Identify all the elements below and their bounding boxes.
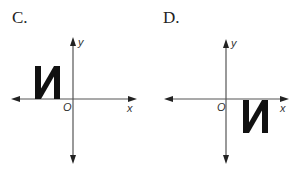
origin-label: O (217, 101, 226, 113)
x-axis-left-arrow-icon (11, 96, 20, 102)
x-axis-left-arrow-icon (164, 96, 173, 102)
option-c-panel[interactable]: C. y O x (0, 0, 147, 173)
x-axis-label: x (126, 102, 133, 114)
y-axis-label: y (77, 36, 85, 48)
origin-label: O (63, 101, 72, 113)
option-c-graph: y O x (0, 0, 147, 173)
option-d-graph: y O x (148, 0, 295, 173)
reversed-n-figure (35, 66, 60, 99)
y-axis-up-arrow-icon (70, 37, 76, 46)
x-axis-label: x (279, 102, 286, 114)
y-axis-down-arrow-icon (70, 155, 76, 164)
option-d-panel[interactable]: D. y O x (148, 0, 295, 173)
y-axis-up-arrow-icon (223, 39, 229, 48)
y-axis-down-arrow-icon (223, 155, 229, 164)
y-axis-label: y (230, 37, 238, 49)
reversed-n-figure (243, 100, 268, 133)
